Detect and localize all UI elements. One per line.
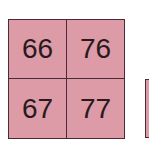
number-grid: 66 76 67 77	[8, 19, 125, 139]
grid-cell-76: 76	[67, 20, 124, 79]
grid-cell-67: 67	[9, 79, 67, 138]
partial-grid-cell	[145, 79, 149, 138]
grid-cell-77: 77	[67, 79, 124, 138]
grid-cell-66: 66	[9, 20, 67, 79]
